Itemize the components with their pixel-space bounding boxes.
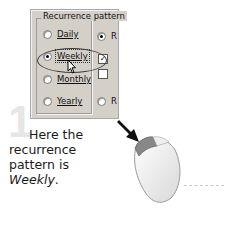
radio-label-right-top: R bbox=[111, 31, 117, 41]
checkbox-unchecked[interactable] bbox=[98, 69, 108, 79]
caption-period: . bbox=[55, 172, 59, 187]
caption-line-2: recurrence bbox=[9, 142, 76, 157]
caption-emphasis: Weekly bbox=[9, 172, 55, 187]
step-caption: Here the recurrence pattern is Weekly. bbox=[9, 127, 119, 187]
radio-button-icon[interactable] bbox=[43, 97, 52, 106]
radio-label-yearly: Yearly bbox=[57, 96, 82, 106]
dashed-line-divider bbox=[184, 185, 224, 186]
radio-button-selected-icon[interactable] bbox=[97, 32, 106, 41]
radio-button-icon[interactable] bbox=[97, 97, 106, 106]
caption-line-1: Here the bbox=[29, 127, 83, 142]
radio-right-bottom[interactable]: R bbox=[97, 96, 117, 106]
radio-daily[interactable]: Daily bbox=[43, 29, 79, 39]
black-arrow-icon bbox=[117, 120, 139, 142]
radio-label-right-bottom: R bbox=[111, 96, 117, 106]
radio-yearly[interactable]: Yearly bbox=[43, 96, 82, 106]
caption-line-3: pattern is bbox=[9, 157, 69, 172]
radio-button-icon[interactable] bbox=[43, 30, 52, 39]
arrow-cursor-icon bbox=[67, 59, 77, 74]
radio-label-daily: Daily bbox=[57, 29, 79, 39]
radio-button-icon[interactable] bbox=[43, 75, 52, 84]
radio-right-top[interactable]: R bbox=[97, 31, 117, 41]
radio-label-monthly: Monthly bbox=[57, 74, 91, 84]
mouse-left-click-icon bbox=[115, 118, 187, 208]
radio-monthly[interactable]: Monthly bbox=[43, 74, 91, 84]
